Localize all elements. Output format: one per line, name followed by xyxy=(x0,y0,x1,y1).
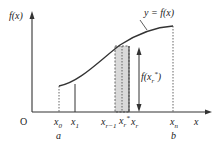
height-label: f(xr*) xyxy=(141,71,161,85)
y-axis-arrow-icon xyxy=(30,11,35,19)
x0-label: x0 xyxy=(54,117,62,130)
xr-label: xr xyxy=(131,117,138,130)
a-label: a xyxy=(56,131,61,141)
y-axis-label: f(x) xyxy=(9,11,23,21)
xn-label: xn xyxy=(170,117,178,130)
height-arrow-down-icon xyxy=(137,104,142,112)
x1-label: x1 xyxy=(71,117,79,130)
curve-label-pointer xyxy=(140,20,147,30)
origin-label: O xyxy=(20,117,27,127)
x-axis-label: x xyxy=(194,117,198,127)
x-axis-arrow-icon xyxy=(205,110,212,115)
xr-minus-1-label: xr−1 xyxy=(101,117,116,130)
b-label: b xyxy=(171,131,176,141)
xr-star-label: xr* xyxy=(119,115,130,129)
curve-label: y = f(x) xyxy=(144,8,174,18)
height-arrow-up-icon xyxy=(137,47,142,55)
